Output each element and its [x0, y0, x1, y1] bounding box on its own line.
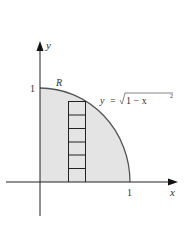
svg-text:y: y — [99, 95, 105, 106]
x-axis-label: x — [169, 186, 175, 198]
svg-text:1 − x: 1 − x — [126, 95, 147, 106]
curve-equation: y = 1 − x 2 — [99, 93, 173, 106]
region-label: R — [55, 77, 62, 88]
y-tick-one: 1 — [30, 83, 35, 94]
svg-text:2: 2 — [170, 93, 173, 99]
svg-text:=: = — [110, 95, 116, 106]
quarter-circle-diagram: y x 1 1 R y = 1 − x 2 — [0, 0, 187, 237]
y-axis-arrow-icon — [37, 41, 44, 51]
y-axis-label: y — [45, 39, 51, 51]
x-tick-one: 1 — [127, 187, 132, 198]
x-axis-arrow-icon — [168, 179, 178, 186]
